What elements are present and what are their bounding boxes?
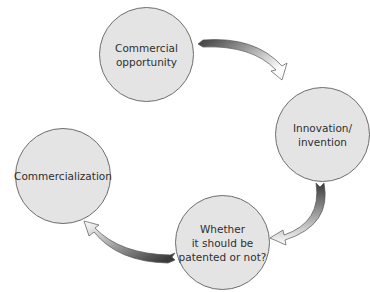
arrow-patent-to-commercialization xyxy=(84,221,175,263)
arrow-opportunity-to-innovation xyxy=(198,40,287,80)
node-label: Commercial opportunity xyxy=(115,41,178,69)
node-label: Commercialization xyxy=(14,169,112,183)
node-innovation-invention: Innovation/ invention xyxy=(275,87,370,182)
node-commercial-opportunity: Commercial opportunity xyxy=(99,7,194,102)
node-patent-decision: Whether it should be patented or not? xyxy=(175,195,270,290)
node-label: Innovation/ invention xyxy=(293,121,352,149)
cycle-diagram: Commercial opportunity Innovation/ inven… xyxy=(0,0,370,292)
arrow-innovation-to-patent xyxy=(270,183,325,245)
node-label: Whether it should be patented or not? xyxy=(179,222,267,264)
node-commercialization: Commercialization xyxy=(15,128,111,224)
